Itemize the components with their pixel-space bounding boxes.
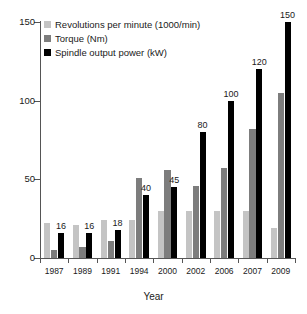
y-axis-tick-label-0: 0 xyxy=(9,253,35,262)
bar-2009-series1 xyxy=(278,93,284,258)
legend-label-torque: Torque (Nm) xyxy=(55,33,108,44)
legend-label-rpm: Revolutions per minute (1000/min) xyxy=(55,19,200,30)
bar-value-label-2000: 45 xyxy=(163,175,185,185)
bar-1989-series2 xyxy=(86,233,92,258)
bar-2006-series2 xyxy=(228,101,234,258)
bar-2007-series0 xyxy=(243,211,249,258)
bar-2002-series2 xyxy=(200,132,206,258)
bar-chart: Revolutions per minute (1000/min) Torque… xyxy=(0,0,307,314)
bar-1991-series1 xyxy=(108,241,114,258)
y-axis-tick-label-150: 150 xyxy=(9,17,35,26)
x-axis-tick xyxy=(40,258,41,263)
bar-2006-series1 xyxy=(221,168,227,258)
x-axis-tick-label-2009: 2009 xyxy=(263,266,299,276)
y-axis-tick-label-100: 100 xyxy=(9,96,35,105)
x-axis-tick xyxy=(238,258,239,263)
bar-value-label-2009: 150 xyxy=(277,10,299,20)
bar-1991-series2 xyxy=(115,230,121,258)
bar-2006-series0 xyxy=(214,211,220,258)
bar-value-label-2007: 120 xyxy=(248,57,270,67)
legend-swatch-torque-icon xyxy=(44,35,51,42)
x-axis-tick xyxy=(267,258,268,263)
legend-swatch-rpm-icon xyxy=(44,21,51,28)
bar-1994-series0 xyxy=(129,220,135,258)
x-axis-tick xyxy=(295,258,296,263)
y-axis-tick-label-50: 50 xyxy=(9,174,35,183)
bar-1987-series1 xyxy=(51,250,57,258)
bar-2000-series2 xyxy=(171,187,177,258)
legend-swatch-power-icon xyxy=(44,49,51,56)
bar-1989-series1 xyxy=(79,247,85,258)
bar-2007-series1 xyxy=(249,129,255,258)
bar-2009-series0 xyxy=(271,228,277,258)
x-axis-tick xyxy=(68,258,69,263)
x-axis-tick xyxy=(125,258,126,263)
x-axis-tick xyxy=(153,258,154,263)
x-axis-line xyxy=(40,258,295,259)
x-axis-tick xyxy=(97,258,98,263)
x-axis-tick xyxy=(210,258,211,263)
legend-item-torque: Torque (Nm) xyxy=(44,32,200,45)
bar-2007-series2 xyxy=(256,69,262,258)
chart-legend: Revolutions per minute (1000/min) Torque… xyxy=(44,18,200,60)
x-axis-tick xyxy=(182,258,183,263)
bar-value-label-1994: 40 xyxy=(135,183,157,193)
bar-value-label-1991: 18 xyxy=(107,218,129,228)
legend-item-power: Spindle output power (kW) xyxy=(44,46,200,59)
bar-value-label-2006: 100 xyxy=(220,89,242,99)
bar-value-label-1987: 16 xyxy=(50,221,72,231)
legend-item-rpm: Revolutions per minute (1000/min) xyxy=(44,18,200,31)
bar-2002-series1 xyxy=(193,186,199,258)
bar-2009-series2 xyxy=(285,22,291,258)
bar-value-label-2002: 80 xyxy=(192,120,214,130)
bar-2002-series0 xyxy=(186,211,192,258)
legend-label-power: Spindle output power (kW) xyxy=(55,47,167,58)
bar-1994-series2 xyxy=(143,195,149,258)
x-axis-title: Year xyxy=(0,291,307,302)
bar-2000-series0 xyxy=(158,211,164,258)
bar-value-label-1989: 16 xyxy=(78,221,100,231)
bar-1987-series2 xyxy=(58,233,64,258)
y-axis-line xyxy=(40,21,41,259)
